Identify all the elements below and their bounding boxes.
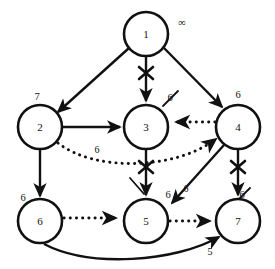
node-5-label: 5 [143, 215, 149, 227]
graph-diagram-canvas: 6 6 6 1 ∞ 2 7 3 4 6 [0, 0, 275, 269]
crossed-label-node5-text: 6 [165, 189, 170, 200]
crossed-label-node5: 6 [165, 189, 170, 200]
node-2-distance: 7 [34, 91, 39, 102]
node-2[interactable]: 2 7 [18, 91, 62, 149]
node-1[interactable]: 1 ∞ [124, 12, 186, 56]
node-6[interactable]: 6 6 [18, 192, 62, 243]
node-2-label: 2 [37, 121, 43, 133]
node-6-label: 6 [37, 215, 43, 227]
edge-1-4 [164, 48, 222, 107]
edge-label-6-7: 5 [208, 246, 213, 257]
node-6-distance: 6 [20, 192, 25, 203]
edge-1-3 [139, 56, 153, 101]
edge-6-7-curve [44, 237, 219, 259]
edge-label-4-5: 6 [184, 183, 189, 194]
node-4-distance: 6 [235, 89, 240, 100]
node-7-label: 7 [235, 215, 241, 227]
edge-4-5 [172, 145, 224, 203]
node-1-distance: ∞ [178, 17, 186, 28]
node-4[interactable]: 4 6 [216, 89, 260, 149]
edge-label-2-3: 6 [95, 144, 100, 155]
edge-3-5 [130, 150, 153, 195]
edge-4-7 [231, 150, 245, 195]
graph-svg: 6 6 6 1 ∞ 2 7 3 4 6 [0, 0, 275, 269]
node-5[interactable]: 5 [124, 199, 168, 243]
edge-1-2 [58, 48, 129, 112]
node-7[interactable]: 7 [216, 199, 260, 243]
node-3[interactable]: 3 [124, 105, 168, 149]
node-4-label: 4 [235, 121, 241, 133]
crossed-label-node3: 6 [163, 91, 178, 106]
node-1-label: 1 [143, 28, 149, 40]
node-3-label: 3 [143, 121, 149, 133]
